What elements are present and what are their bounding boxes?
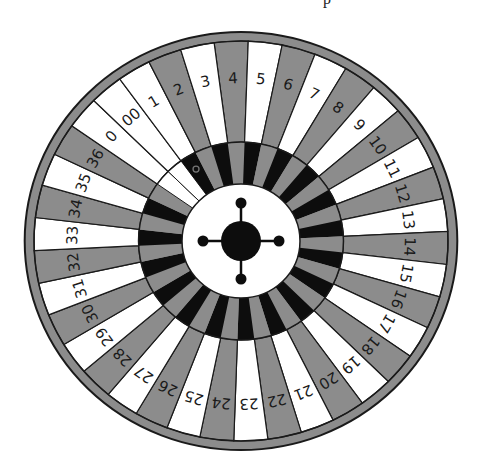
roulette-wheel: 4567891011121314151617181920212223242526… [25, 32, 458, 450]
number-label: 24 [211, 393, 232, 413]
number-label: 15 [396, 262, 417, 284]
spindle-icon [221, 221, 261, 261]
turret-knob-icon [236, 198, 247, 209]
number-label: 4 [228, 69, 238, 87]
number-label: 33 [63, 225, 82, 245]
number-label: 32 [64, 252, 84, 273]
roulette-wheel-diagram: 4567891011121314151617181920212223242526… [0, 0, 479, 462]
number-label: 34 [65, 197, 86, 219]
number-label: 23 [239, 394, 259, 413]
turret-knob-icon [274, 236, 285, 247]
number-label: 14 [400, 237, 419, 257]
turret-knob-icon [236, 274, 247, 285]
center-hub [182, 184, 300, 298]
number-label: 13 [398, 209, 418, 230]
turret-knob-icon [198, 236, 209, 247]
